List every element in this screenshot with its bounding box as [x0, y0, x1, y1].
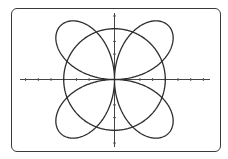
- polar-plot: [0, 0, 228, 159]
